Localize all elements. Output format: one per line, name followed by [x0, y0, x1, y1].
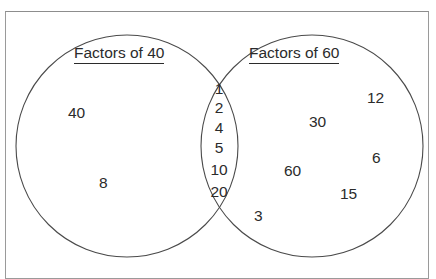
intersection-member: 2 [202, 100, 236, 116]
intersection-member: 4 [202, 120, 236, 136]
intersection-member: 5 [202, 140, 236, 156]
intersection-member: 1 [202, 81, 236, 97]
intersection-member: 10 [202, 162, 236, 178]
left-only-member: 40 [68, 105, 85, 121]
left-only-member: 8 [99, 175, 108, 191]
intersection-member: 20 [202, 184, 236, 200]
right-only-member: 30 [309, 114, 326, 130]
right-set-title: Factors of 60 [249, 45, 339, 64]
right-only-member: 15 [340, 186, 357, 202]
right-only-member: 6 [372, 150, 381, 166]
left-set-title: Factors of 40 [74, 45, 164, 64]
right-only-member: 60 [284, 163, 301, 179]
right-only-member: 12 [367, 90, 384, 106]
right-only-member: 3 [254, 208, 263, 224]
